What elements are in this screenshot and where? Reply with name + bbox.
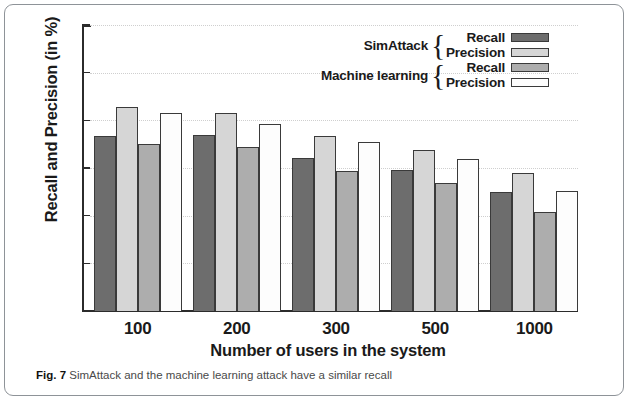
bar-simattack-recall [490,192,512,311]
legend-item-label: Precision [444,45,511,60]
caption-text: SimAttack and the machine learning attac… [69,369,392,381]
bar-ml-recall [534,212,556,311]
legend-swatch [511,33,549,42]
bar-ml-precision [457,159,479,311]
legend-swatch [511,78,549,87]
bar-ml-recall [237,147,259,311]
legend-rows: RecallPrecision [444,30,549,60]
figure-caption: Fig. 7 SimAttack and the machine learnin… [36,369,596,381]
y-axis-title: Recall and Precision (in %) [42,0,61,255]
bar-ml-recall [336,171,358,311]
legend-brace-icon: { [431,62,444,88]
bar-ml-precision [160,113,182,311]
bar-simattack-recall [193,135,215,311]
bar-simattack-recall [292,158,314,311]
bar-ml-recall [435,183,457,311]
bar-simattack-recall [391,170,413,311]
bar-simattack-precision [413,150,435,311]
bar-ml-precision [556,191,578,311]
legend-item: Recall [444,30,549,45]
legend-group-name: SimAttack [300,38,431,53]
bar-group [94,25,182,311]
bar-ml-recall [138,144,160,311]
legend-item-label: Recall [444,30,511,45]
legend-group-name: Machine learning [300,68,431,83]
bar-simattack-precision [512,173,534,311]
legend-item: Precision [444,75,549,90]
legend-swatch [511,48,549,57]
bar-simattack-precision [215,113,237,311]
legend-item-label: Recall [444,60,511,75]
bar-group [193,25,281,311]
bar-ml-precision [259,124,281,311]
legend-swatch [511,63,549,72]
legend-rows: RecallPrecision [444,60,549,90]
legend-item: Recall [444,60,549,75]
x-axis-title: Number of users in the system [78,341,578,360]
caption-figure-number: Fig. 7 [36,369,66,381]
legend-item: Precision [444,45,549,60]
legend-item-label: Precision [444,75,511,90]
bar-simattack-recall [94,136,116,311]
x-tick-label: 1000 [474,319,594,339]
legend-brace-icon: { [431,32,444,58]
legend-group: Machine learning{RecallPrecision [300,60,568,90]
legend-group: SimAttack{RecallPrecision [300,30,568,60]
bar-simattack-precision [116,107,138,311]
bar-ml-precision [358,142,380,311]
bar-simattack-precision [314,136,336,311]
chart-legend: SimAttack{RecallPrecisionMachine learnin… [300,30,568,90]
